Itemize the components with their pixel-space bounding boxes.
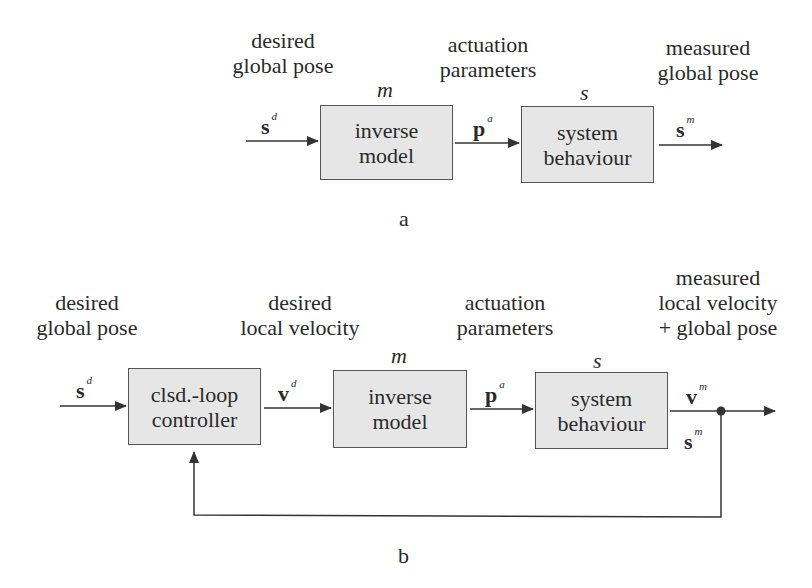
a-signal-p-a: pa: [473, 112, 493, 142]
a-output-label: measured global pose: [628, 35, 788, 85]
b-signal-s-d: sd: [76, 374, 92, 404]
a-middle-label: actuation parameters: [418, 32, 558, 82]
a-system-behaviour-block: system behaviour: [521, 106, 654, 183]
b-system-behaviour-block: system behaviour: [535, 372, 668, 449]
b-block-symbol-s: s: [593, 348, 602, 374]
b-third-label: actuation parameters: [435, 290, 575, 340]
b-signal-p-a: pa: [485, 378, 505, 408]
a-input-label: desired global pose: [213, 28, 353, 78]
b-controller-block: clsd.-loop controller: [128, 368, 261, 445]
b-input-label: desired global pose: [22, 290, 152, 340]
b-signal-s-m: sm: [684, 425, 703, 455]
caption-a: a: [399, 206, 409, 232]
a-inverse-model-block: inverse model: [320, 105, 453, 180]
a-signal-s-m: sm: [676, 113, 695, 143]
caption-b: b: [398, 543, 409, 569]
b-output-label: measured local velocity + global pose: [638, 265, 798, 340]
a-signal-s-d: sd: [261, 110, 277, 140]
b-signal-v-d: vd: [278, 377, 297, 407]
a-block-symbol-m: m: [377, 77, 393, 103]
b-inverse-model-block: inverse model: [333, 370, 467, 448]
b-second-label: desired local velocity: [225, 290, 375, 340]
a-block-symbol-s: s: [580, 80, 589, 106]
b-block-symbol-m: m: [391, 343, 407, 369]
b-signal-v-m: vm: [686, 380, 707, 410]
